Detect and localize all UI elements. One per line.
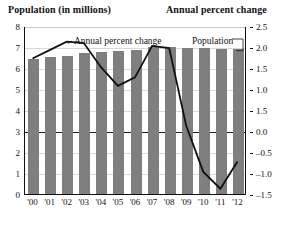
line-series-annotation: Annual percent change [74, 37, 162, 47]
bar [79, 53, 90, 194]
x-axis-labels: '00'01'02'03'04'05'06'07'08'09'10'11'12 [24, 198, 246, 212]
right-tick-label: –1.5 [256, 191, 272, 200]
right-tick-mark [250, 111, 253, 112]
plot-inner [25, 27, 245, 194]
bar [216, 49, 227, 194]
x-tick-label: '07 [144, 198, 161, 207]
left-tick-label: 8 [4, 23, 20, 32]
bar [199, 48, 210, 194]
bar [233, 49, 244, 194]
x-tick-label: '05 [109, 198, 126, 207]
left-tick-label: 3 [4, 128, 20, 137]
plot-area [24, 27, 246, 195]
bar [182, 48, 193, 194]
left-tick-label: 5 [4, 86, 20, 95]
gridline [25, 27, 245, 28]
left-tick-label: 4 [4, 107, 20, 116]
x-tick-label: '08 [161, 198, 178, 207]
x-tick-label: '00 [24, 198, 41, 207]
left-tick-label: 6 [4, 65, 20, 74]
left-tick-label: 7 [4, 44, 20, 53]
right-tick-mark [250, 69, 253, 70]
chart-figure: Population (in millions) Annual percent … [0, 0, 286, 227]
right-tick-label: 2.0 [256, 44, 267, 53]
right-tick-mark [250, 90, 253, 91]
gridline [25, 48, 245, 49]
bar [148, 47, 159, 194]
x-tick-label: '11 [212, 198, 229, 207]
bar-series-annotation: Population [192, 37, 233, 47]
bar [131, 50, 142, 194]
x-tick-label: '03 [75, 198, 92, 207]
right-tick-label: 0.0 [256, 128, 267, 137]
right-axis-title: Annual percent change [166, 4, 267, 15]
left-tick-label: 2 [4, 149, 20, 158]
left-axis: 012345678 [0, 27, 20, 195]
bar [113, 51, 124, 194]
x-tick-label: '02 [58, 198, 75, 207]
left-tick-label: 0 [4, 191, 20, 200]
bar [96, 52, 107, 194]
x-tick-label: '09 [178, 198, 195, 207]
x-tick-label: '12 [229, 198, 246, 207]
bar [45, 57, 56, 194]
right-axis: –1.5–1.0–0.50.01.51.01.52.02.5 [250, 27, 284, 195]
bar [62, 56, 73, 194]
right-tick-label: 1.5 [256, 65, 267, 74]
right-tick-mark [250, 195, 253, 196]
right-tick-mark [250, 48, 253, 49]
bar [28, 59, 39, 194]
x-tick-label: '04 [92, 198, 109, 207]
right-tick-label: 1.5 [256, 107, 267, 116]
right-tick-mark [250, 153, 253, 154]
right-tick-label: –1.0 [256, 170, 272, 179]
right-tick-label: –0.5 [256, 149, 272, 158]
x-tick-label: '01 [41, 198, 58, 207]
right-tick-label: 2.5 [256, 23, 267, 32]
right-tick-mark [250, 174, 253, 175]
x-tick-label: '06 [126, 198, 143, 207]
bar [165, 47, 176, 194]
right-tick-mark [250, 132, 253, 133]
right-tick-mark [250, 27, 253, 28]
left-axis-title: Population (in millions) [8, 4, 111, 15]
x-tick-label: '10 [195, 198, 212, 207]
left-tick-label: 1 [4, 170, 20, 179]
right-tick-label: 1.0 [256, 86, 267, 95]
